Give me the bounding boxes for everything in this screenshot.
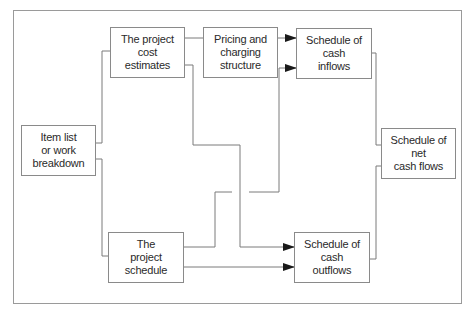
node-cash-inflows: Schedule of cash inflows <box>296 28 372 79</box>
edge-outflows-net <box>369 166 381 259</box>
edge-itemlist-costestimates <box>95 51 110 143</box>
node-cost-estimates: The project cost estimates <box>110 27 185 78</box>
node-net-cash-flows: Schedule of net cash flows <box>381 128 456 179</box>
edge-inflows-net <box>372 53 381 145</box>
edge-itemlist-schedule <box>95 159 108 256</box>
edge-schedule-inflows-b <box>249 68 296 192</box>
node-item-list: Item list or work breakdown <box>21 125 96 176</box>
node-project-schedule: The project schedule <box>108 232 184 283</box>
edge-cost-outflows <box>185 65 294 247</box>
diagram-canvas: Item list or work breakdown The project … <box>0 0 474 317</box>
node-pricing-structure: Pricing and charging structure <box>203 27 278 78</box>
node-cash-outflows: Schedule of cash outflows <box>294 232 370 283</box>
edge-schedule-inflows-a <box>183 192 232 247</box>
